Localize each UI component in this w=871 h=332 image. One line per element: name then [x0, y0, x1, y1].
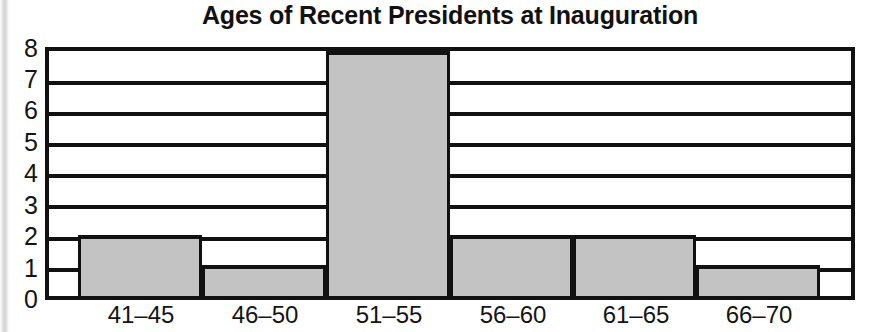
y-axis-tick-3: 3: [8, 193, 38, 218]
y-axis-tick-4: 4: [8, 161, 38, 186]
gridline-5: [49, 143, 851, 147]
y-axis-tick-1: 1: [8, 256, 38, 281]
plot-area: [45, 47, 855, 300]
plot-inner: [49, 51, 851, 296]
y-axis-tick-8: 8: [8, 36, 38, 61]
y-axis-tick-0: 0: [8, 287, 38, 312]
y-axis-tick-5: 5: [8, 130, 38, 155]
x-axis-tick-46-50: 46–50: [202, 303, 328, 327]
bar-66-70: [696, 265, 820, 296]
y-axis-tick-7: 7: [8, 67, 38, 92]
x-axis-tick-41-45: 41–45: [78, 303, 204, 327]
gridline-3: [49, 205, 851, 209]
bar-46-50: [202, 265, 326, 296]
x-axis-tick-51-55: 51–55: [326, 303, 452, 327]
bar-41-45: [78, 235, 202, 296]
y-axis-tick-6: 6: [8, 98, 38, 123]
x-axis-tick-66-70: 66–70: [696, 303, 822, 327]
chart-title: Ages of Recent Presidents at Inauguratio…: [45, 1, 855, 30]
gridline-4: [49, 174, 851, 178]
gridline-6: [49, 112, 851, 116]
bar-51-55: [326, 51, 450, 296]
bar-56-60: [450, 235, 573, 296]
x-axis-tick-61-65: 61–65: [573, 303, 699, 327]
gridline-7: [49, 81, 851, 85]
x-axis-tick-56-60: 56–60: [450, 303, 576, 327]
y-axis-tick-2: 2: [8, 224, 38, 249]
bar-61-65: [573, 235, 696, 296]
